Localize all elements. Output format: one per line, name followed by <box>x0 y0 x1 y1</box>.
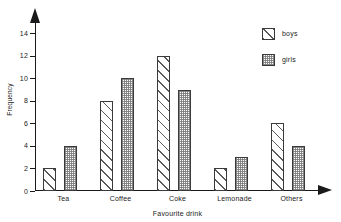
bar-group <box>149 22 206 191</box>
x-axis-label-tea: Tea <box>35 195 92 202</box>
bar-boys-others <box>271 123 284 191</box>
legend-item-girls: girls <box>262 53 298 66</box>
bar-group <box>35 22 92 191</box>
y-axis-tick-label: 2 <box>24 165 28 172</box>
bar-girls-coffee <box>121 78 134 191</box>
y-axis-tick <box>30 191 35 192</box>
bar-girls-coke <box>178 90 191 191</box>
y-axis-tick-label: 8 <box>24 97 28 104</box>
bar-girls-tea <box>64 146 77 191</box>
y-axis-tick-label: 4 <box>24 142 28 149</box>
bar-girls-others <box>292 146 305 191</box>
bar-boys-tea <box>43 168 56 191</box>
bar-group <box>92 22 149 191</box>
bar-boys-lemonade <box>214 168 227 191</box>
x-axis-title: Favourite drink <box>35 210 320 217</box>
bar-boys-coffee <box>100 101 113 191</box>
x-axis-label-coffee: Coffee <box>92 195 149 202</box>
y-axis-tick-label: 10 <box>20 75 28 82</box>
y-axis-tick-label: 12 <box>20 52 28 59</box>
legend: boysgirls <box>262 27 298 79</box>
legend-swatch-boys <box>262 28 275 40</box>
bar-boys-coke <box>157 56 170 191</box>
legend-swatch-girls <box>262 54 275 66</box>
y-axis-title: Frequency <box>6 65 13 135</box>
legend-label-boys: boys <box>282 30 298 37</box>
x-axis-label-coke: Coke <box>149 195 206 202</box>
x-axis-arrow-icon <box>318 185 332 195</box>
y-axis-tick-label: 0 <box>24 188 28 195</box>
y-axis-tick-label: 14 <box>20 30 28 37</box>
legend-item-boys: boys <box>262 27 298 40</box>
bar-group <box>206 22 263 191</box>
legend-label-girls: girls <box>282 56 296 63</box>
x-axis-label-lemonade: Lemonade <box>206 195 263 202</box>
bar-girls-lemonade <box>235 157 248 191</box>
y-axis-tick-label: 6 <box>24 120 28 127</box>
x-axis-label-others: Others <box>263 195 320 202</box>
bar-chart: 02468101214 Frequency Favourite drink Te… <box>0 0 341 222</box>
y-axis-arrow-icon <box>30 8 40 23</box>
